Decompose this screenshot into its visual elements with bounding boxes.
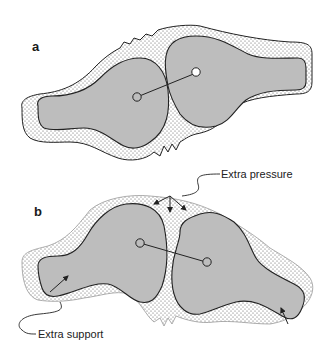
callout-extra-pressure: Extra pressure (221, 168, 293, 180)
panel-label-b: b (34, 204, 42, 219)
panel-a: a (22, 25, 312, 160)
callout-leader-extra-pressure (182, 174, 220, 196)
center-marker-left-b (136, 239, 144, 247)
callout-extra-support: Extra support (38, 328, 103, 340)
panel-label-a: a (32, 39, 40, 54)
center-marker-left-a (133, 93, 141, 101)
center-marker-right-b (203, 258, 211, 266)
center-marker-right-a (192, 68, 200, 76)
panel-b: b Extra pressure Extra support (19, 168, 313, 340)
joint-diagram: a b Extra (0, 0, 328, 350)
